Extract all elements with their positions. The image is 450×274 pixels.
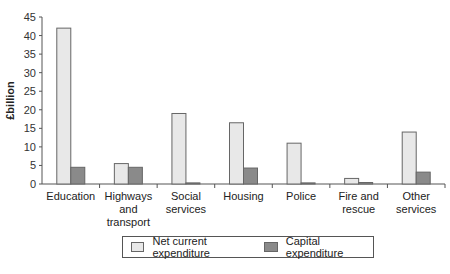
bar-capital [71, 167, 85, 184]
bar-chart: 051015202530354045£billionEducationHighw… [0, 0, 450, 274]
y-tick-label: 35 [24, 48, 36, 60]
legend-label-net: Net current expenditure [152, 235, 246, 259]
y-tick-label: 40 [24, 30, 36, 42]
legend-item-net: Net current expenditure [131, 235, 246, 259]
bar-net [57, 28, 71, 184]
x-category-label: Housing [223, 190, 263, 202]
bar-net [230, 123, 244, 184]
y-tick-label: 25 [24, 85, 36, 97]
bar-net [402, 132, 416, 184]
bar-net [287, 143, 301, 184]
y-axis-label: £billion [4, 81, 16, 120]
y-tick-label: 45 [24, 11, 36, 23]
y-tick-label: 30 [24, 67, 36, 79]
legend-swatch-net [131, 242, 144, 252]
bar-capital [244, 168, 258, 184]
bar-capital [359, 183, 373, 184]
y-tick-label: 0 [30, 178, 36, 190]
bar-net [114, 164, 128, 184]
x-category-label: transport [107, 216, 150, 228]
x-category-label: and [119, 203, 137, 215]
bar-net [345, 178, 359, 184]
x-category-label: services [166, 203, 207, 215]
x-category-label: Highways [105, 190, 153, 202]
y-tick-label: 15 [24, 122, 36, 134]
x-category-label: Police [286, 190, 316, 202]
y-tick-label: 20 [24, 104, 36, 116]
y-tick-label: 5 [30, 159, 36, 171]
x-category-label: Other [402, 190, 430, 202]
x-category-label: services [396, 203, 437, 215]
bar-capital [416, 172, 430, 184]
x-category-label: Education [46, 190, 95, 202]
legend-label-capital: Capital expenditure [286, 235, 363, 259]
chart-legend: Net current expenditure Capital expendit… [122, 236, 374, 258]
bar-capital [128, 167, 142, 184]
x-category-label: Fire and [338, 190, 378, 202]
y-tick-label: 10 [24, 141, 36, 153]
legend-swatch-capital [264, 242, 277, 252]
bar-capital [301, 183, 315, 184]
x-category-label: rescue [342, 203, 375, 215]
x-category-label: Social [171, 190, 201, 202]
legend-item-capital: Capital expenditure [264, 235, 363, 259]
bar-net [172, 113, 186, 184]
bar-capital [186, 183, 200, 184]
